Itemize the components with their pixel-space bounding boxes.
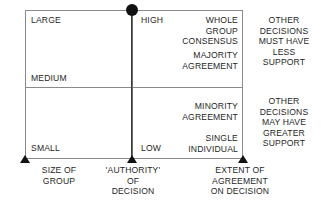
agreement-label-whole-group-consensus: WHOLE GROUP CONSENSUS <box>148 15 238 47</box>
authority-high-dot-icon <box>126 4 138 16</box>
authority-vertical-axis <box>131 10 133 159</box>
note-lower-other-decisions: OTHER DECISIONS MAY HAVE GREATER SUPPORT <box>250 96 318 149</box>
decision-matrix-diagram: LARGE MEDIUM SMALL HIGH LOW WHOLE GROUP … <box>0 0 321 210</box>
scale-label-small: SMALL <box>31 143 60 154</box>
axis-caption-authority-of-decision: 'AUTHORITY' OF DECISION <box>96 165 170 197</box>
marker-triangle-authority <box>127 155 137 163</box>
marker-triangle-size-of-group <box>20 155 30 163</box>
axis-caption-size-of-group: SIZE OF GROUP <box>23 165 95 186</box>
axis-caption-extent-of-agreement: EXTENT OF AGREEMENT ON DECISION <box>188 165 292 197</box>
agreement-label-minority-agreement: MINORITY AGREEMENT <box>148 101 238 122</box>
agreement-label-majority-agreement: MAJORITY AGREEMENT <box>148 50 238 71</box>
scale-label-large: LARGE <box>31 15 61 26</box>
note-upper-other-decisions: OTHER DECISIONS MUST HAVE LESS SUPPORT <box>250 15 318 68</box>
agreement-label-single-individual: SINGLE INDIVIDUAL <box>148 133 238 154</box>
marker-triangle-extent-of-agreement <box>238 155 248 163</box>
scale-label-medium: MEDIUM <box>31 73 67 84</box>
matrix-horizontal-divider <box>25 87 243 88</box>
